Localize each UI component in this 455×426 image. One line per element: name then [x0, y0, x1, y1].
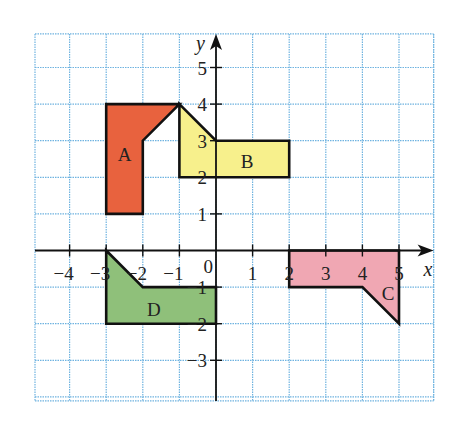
x-axis-label: x	[423, 258, 433, 280]
x-tick-label: −1	[163, 263, 183, 284]
x-tick-label: 3	[321, 263, 331, 284]
y-tick-label: −3	[187, 350, 207, 371]
shape-b	[179, 104, 289, 177]
x-tick-label: 5	[394, 263, 404, 284]
origin-label: 0	[204, 256, 214, 277]
x-tick-label: 4	[358, 263, 368, 284]
y-axis-label: y	[194, 32, 205, 55]
x-tick-label: 2	[284, 263, 294, 284]
x-tick-label: −3	[90, 263, 110, 284]
shape-label-d: D	[147, 299, 161, 320]
shape-label-b: B	[241, 151, 254, 172]
y-tick-label: 1	[198, 204, 208, 225]
coordinate-plane: ABCD xy −4−3−2−11234554321−1−2−30	[0, 0, 455, 426]
y-tick-label: −2	[187, 314, 207, 335]
y-tick-label: 4	[198, 94, 208, 115]
y-tick-label: 3	[198, 131, 208, 152]
y-tick-label: 2	[198, 167, 208, 188]
grid	[35, 34, 434, 401]
y-tick-label: 5	[198, 58, 208, 79]
axes: xy	[35, 32, 434, 401]
x-tick-label: −4	[53, 263, 74, 284]
shape-label-c: C	[382, 283, 395, 304]
x-tick-label: −2	[127, 263, 147, 284]
y-tick-label: −1	[187, 277, 207, 298]
x-tick-label: 1	[248, 263, 258, 284]
shape-label-a: A	[118, 144, 132, 165]
